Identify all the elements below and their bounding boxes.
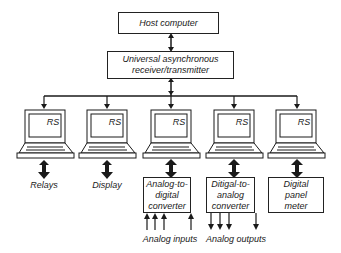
dpm-line2: panel (285, 190, 307, 201)
adc-line1: Analog-to- (146, 179, 188, 190)
analog-inputs-label: Analog inputs (140, 234, 200, 245)
rs-label-5: RS (288, 117, 320, 127)
dpm-line3: meter (284, 201, 307, 212)
analog-outputs-label: Analog outputs (204, 234, 268, 245)
uart-box: Universal asynchronous receiver/transmit… (107, 51, 234, 79)
rs-label-3: RS (163, 117, 195, 127)
host-computer-label: Host computer (139, 18, 198, 29)
rs-label-4: RS (226, 117, 258, 127)
adc-line2: digital (155, 190, 179, 201)
rs-label-2: RS (99, 117, 131, 127)
dac-line2: analog (217, 190, 244, 201)
adc-line3: converter (148, 201, 186, 212)
digital-panel-meter-box: Digital panel meter (268, 177, 324, 213)
relays-label: Relays (24, 180, 64, 191)
uart-label-line2: receiver/transmitter (132, 65, 209, 76)
dac-line3: converter (212, 201, 250, 212)
host-computer-box: Host computer (118, 12, 219, 34)
display-label: Display (87, 180, 127, 191)
uart-label-line1: Universal asynchronous (122, 54, 218, 65)
dac-box: Ditigal-to- analog converter (206, 177, 255, 213)
dac-line1: Ditigal-to- (211, 179, 250, 190)
dpm-line1: Digital (283, 179, 308, 190)
rs-label-1: RS (37, 117, 69, 127)
adc-box: Analog-to- digital converter (143, 177, 191, 213)
